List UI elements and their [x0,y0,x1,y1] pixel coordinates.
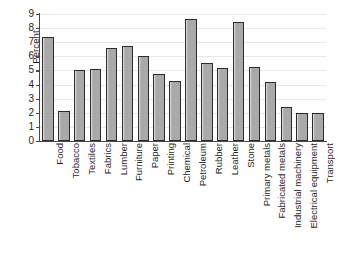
x-axis-tick-label: Rubber [212,143,225,174]
bar [169,81,180,141]
plot-area [40,14,326,141]
bar [74,70,85,141]
y-axis-tick-label: 7 [4,37,34,47]
x-axis-tick-label: Food [53,143,66,165]
bar [58,111,69,141]
bar [265,82,276,141]
x-axis-tick-label: Petroleum [196,143,209,186]
y-axis-tick-label: 4 [4,80,34,90]
y-axis-tick-label: 3 [4,94,34,104]
y-axis-tick-label: 0 [4,136,34,146]
bar-chart-figure: Percent 0123456789 FoodTobaccoTextilesFa… [0,0,338,262]
x-axis-tick-label: Paper [148,143,161,168]
bar [312,113,323,141]
y-axis-tick-label: 5 [4,65,34,75]
x-axis-tick-label: Primary metals [260,143,273,206]
y-axis-tick-label: 9 [4,9,34,19]
y-axis-tick-label: 1 [4,122,34,132]
y-axis-tick-label: 8 [4,23,34,33]
bar [296,113,307,141]
x-axis-tick-label: Tobacco [69,143,82,178]
x-axis-tick-label: Industrial machinery [291,143,304,228]
x-axis-tick-label: Printing [164,143,177,175]
bar [201,63,212,141]
bar [153,74,164,141]
bars-layer [40,14,326,141]
x-axis-tick-label: Fabricated metals [275,143,288,219]
x-axis-tick-label: Fabrics [101,143,114,174]
x-axis-tick-label: Leather [228,143,241,175]
bar [90,69,101,141]
y-axis-tick-label: 2 [4,108,34,118]
x-axis-tick-label: Electrical equipment [307,143,320,229]
x-axis-tick-label: Furniture [132,143,145,181]
x-axis-tick-label: Textiles [85,143,98,175]
x-axis-tick-label: Lumber [117,143,130,175]
bar [249,67,260,141]
bar [122,46,133,141]
bar [233,22,244,141]
bar [42,37,53,141]
bar [185,19,196,141]
y-axis-tick-labels: 0123456789 [0,0,38,262]
bar [217,68,228,141]
x-axis-tick-labels: FoodTobaccoTextilesFabricsLumberFurnitur… [40,143,326,262]
x-axis-tick-label: Stone [244,143,257,168]
bar [138,56,149,141]
x-axis-tick-label: Transport [323,143,336,183]
y-axis-tick-label: 6 [4,51,34,61]
x-axis-tick-label: Chemical [180,143,193,183]
bar [281,107,292,141]
bar [106,48,117,141]
